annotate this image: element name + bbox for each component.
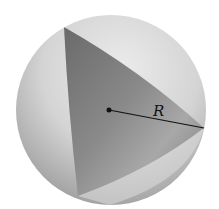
- sphere-diagram: R: [0, 0, 219, 209]
- center-point: [107, 108, 112, 113]
- radius-label: R: [152, 102, 164, 120]
